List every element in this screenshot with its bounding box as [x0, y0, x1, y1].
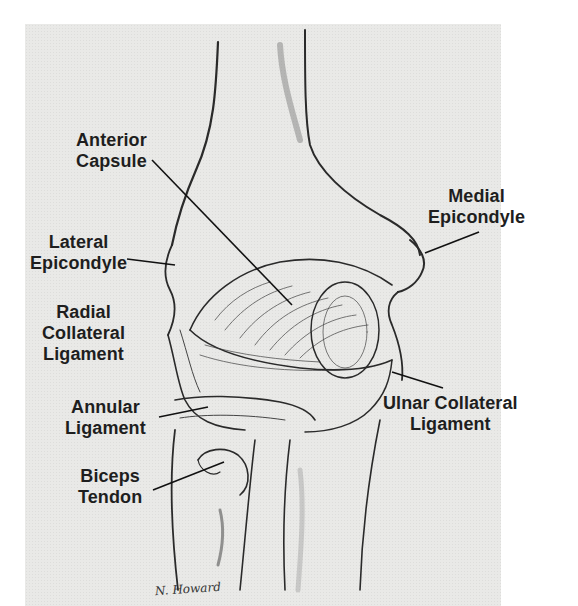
label-radial-collateral-ligament: Radial Collateral Ligament — [42, 302, 125, 365]
label-annular-ligament: Annular Ligament — [65, 397, 146, 439]
label-anterior-capsule: Anterior Capsule — [76, 130, 147, 172]
label-lateral-epicondyle: Lateral Epicondyle — [30, 232, 127, 274]
label-ulnar-collateral-ligament: Ulnar Collateral Ligament — [383, 393, 518, 435]
label-biceps-tendon: Biceps Tendon — [78, 466, 142, 508]
leader-anterior-capsule — [152, 160, 292, 305]
leader-biceps-tendon — [153, 462, 224, 490]
leader-lateral-epicondyle — [127, 259, 175, 265]
leader-ulnar-collateral — [392, 372, 443, 388]
label-medial-epicondyle: Medial Epicondyle — [428, 186, 525, 228]
leader-medial-epicondyle — [425, 232, 479, 253]
